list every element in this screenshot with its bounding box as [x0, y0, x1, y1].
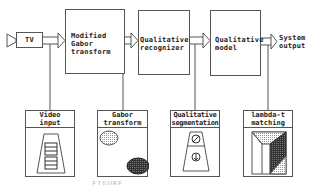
tv-label: TV: [25, 36, 34, 44]
segmented-trapezoid-icon: [171, 111, 221, 178]
gabor-ellipses-icon: [98, 111, 149, 178]
block-label-line: Gabor: [71, 40, 93, 48]
arrow-gabor-to-recognizer: [125, 33, 138, 48]
video-input-panel: Video input: [25, 110, 75, 177]
system-output-label: output: [279, 42, 306, 50]
lambda-t-matching-panel: lambda-t matching: [243, 110, 293, 177]
system-output-label: System: [279, 34, 306, 42]
gabor-transform-panel: Gabor transform: [97, 110, 148, 177]
block-label-line: recognizer: [140, 44, 184, 52]
block-label-line: Modified: [71, 32, 106, 40]
block-label-line: model: [215, 44, 237, 52]
block-label-line: Qualitative: [140, 36, 189, 44]
block-label-line: transform: [71, 48, 111, 56]
shaded-polygons-icon: [244, 111, 294, 178]
modified-gabor-transform-block: Modified Gabor transform: [65, 9, 125, 74]
qualitative-segmentation-panel: Qualitative segmentation: [170, 110, 220, 177]
qualitative-model-block: Qualitative model: [210, 10, 261, 76]
arrow-recognizer-to-model: [190, 33, 210, 48]
block-label-line: Qualitative: [215, 36, 264, 44]
figure-caption: FIGURE: [92, 180, 123, 185]
qualitative-recognizer-block: Qualitative recognizer: [138, 10, 190, 75]
road-with-vehicles-icon: [26, 111, 76, 178]
arrow-tv-to-gabor: [42, 33, 65, 48]
tv-source-triangle-icon: [7, 34, 16, 47]
tv-block: TV: [16, 32, 43, 48]
